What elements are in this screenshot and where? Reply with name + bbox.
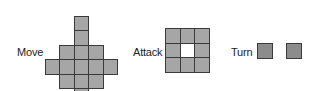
grid-cell [88, 45, 103, 60]
grid-cell [74, 88, 89, 91]
grid-cell [165, 43, 181, 59]
grid-cell [45, 59, 60, 74]
grid-cell [180, 28, 196, 44]
grid-cell [88, 59, 103, 74]
grid-cell [194, 28, 210, 44]
grid-cell [74, 59, 89, 74]
grid-cell [59, 59, 74, 74]
grid-cell [194, 43, 210, 59]
grid-cell [165, 28, 181, 44]
grid-cell [74, 74, 89, 89]
turn-square-1 [257, 43, 273, 59]
grid-cell [74, 30, 89, 45]
grid-cell [180, 43, 196, 59]
turn-square-2 [286, 43, 302, 59]
grid-cell [59, 45, 74, 60]
turn-label: Turn [231, 45, 252, 59]
move-label: Move [17, 45, 43, 59]
grid-cell [103, 59, 118, 74]
grid-cell [74, 16, 89, 31]
grid-cell [165, 57, 181, 73]
grid-cell [74, 45, 89, 60]
attack-label: Attack [133, 45, 162, 59]
grid-cell [88, 74, 103, 89]
grid-cell [180, 57, 196, 73]
grid-cell [194, 57, 210, 73]
grid-cell [59, 74, 74, 89]
